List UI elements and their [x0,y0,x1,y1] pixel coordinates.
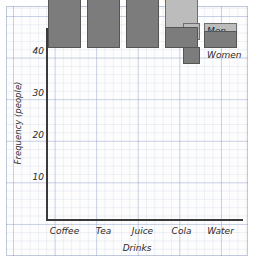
legend-swatch-women [183,47,200,64]
bar-segment-women[interactable] [165,27,198,48]
x-axis-line [46,219,243,221]
bar-group[interactable] [126,0,159,48]
y-axis-title: Frequency (people) [13,68,23,178]
x-label-juice: Juice [126,226,159,236]
x-axis-title: Drinks [107,243,167,253]
bar-group[interactable] [87,0,120,48]
legend-label: Women [207,50,241,60]
x-label-tea: Tea [87,226,120,236]
bar-chart-plot: 10203040 Frequency (people) CoffeeTeaJui… [0,0,254,267]
bar-group[interactable] [48,0,81,48]
y-tick-label: 30 [24,88,44,98]
x-label-coffee: Coffee [48,226,81,236]
bar-segment-women[interactable] [87,0,120,48]
bar-segment-women[interactable] [48,0,81,48]
bar-segment-women[interactable] [204,31,237,48]
x-label-water: Water [204,226,237,236]
x-label-cola: Cola [165,226,198,236]
bar-segment-women[interactable] [126,0,159,48]
y-tick-label: 20 [24,130,44,140]
y-tick-label: 40 [24,46,44,56]
y-tick-label: 10 [24,172,44,182]
y-axis-line [46,28,48,220]
